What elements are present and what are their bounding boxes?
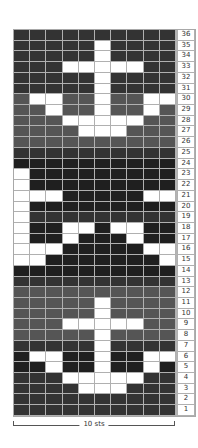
stitch-cell bbox=[14, 266, 30, 277]
row-number-label: 1 bbox=[177, 405, 195, 416]
stitch-cell bbox=[14, 126, 30, 137]
stitch-cell bbox=[95, 191, 111, 202]
row-number-label: 28 bbox=[177, 116, 195, 127]
row-number-label: 21 bbox=[177, 191, 195, 202]
stitch-cell bbox=[144, 94, 160, 105]
stitch-cell bbox=[127, 62, 143, 73]
stitch-cell bbox=[63, 223, 79, 234]
stitch-cell bbox=[111, 191, 127, 202]
stitch-cell bbox=[30, 330, 46, 341]
stitch-cell bbox=[160, 287, 176, 298]
stitch-cell bbox=[63, 169, 79, 180]
stitch-cell bbox=[30, 84, 46, 95]
stitch-cell bbox=[14, 73, 30, 84]
stitch-cell bbox=[144, 405, 160, 416]
chart-row: 27 bbox=[14, 126, 195, 137]
stitch-cell bbox=[127, 84, 143, 95]
chart-row: 12 bbox=[14, 287, 195, 298]
stitch-cell bbox=[14, 30, 30, 41]
stitch-cell bbox=[46, 405, 62, 416]
stitch-cell bbox=[46, 169, 62, 180]
stitch-cell bbox=[79, 309, 95, 320]
stitch-cell bbox=[14, 330, 30, 341]
stitch-cell bbox=[79, 62, 95, 73]
row-number-label: 10 bbox=[177, 309, 195, 320]
stitch-cell bbox=[14, 223, 30, 234]
chart-row: 2 bbox=[14, 394, 195, 405]
stitch-cell bbox=[46, 126, 62, 137]
knitting-chart-grid: 3635343332313029282726252423222120191817… bbox=[13, 29, 196, 417]
stitch-cell bbox=[30, 266, 46, 277]
stitch-cell bbox=[144, 30, 160, 41]
stitch-cell bbox=[127, 126, 143, 137]
stitch-cell bbox=[63, 341, 79, 352]
stitch-cell bbox=[46, 255, 62, 266]
stitch-cell bbox=[79, 234, 95, 245]
stitch-cell bbox=[79, 51, 95, 62]
stitch-cell bbox=[160, 266, 176, 277]
stitch-cell bbox=[95, 94, 111, 105]
stitch-cell bbox=[127, 137, 143, 148]
stitch-cell bbox=[79, 73, 95, 84]
stitch-cell bbox=[160, 126, 176, 137]
stitch-cell bbox=[127, 319, 143, 330]
row-number-label: 22 bbox=[177, 180, 195, 191]
stitch-cell bbox=[127, 94, 143, 105]
stitch-cell bbox=[63, 148, 79, 159]
stitch-cell bbox=[14, 352, 30, 363]
stitch-cell bbox=[63, 277, 79, 288]
stitch-cell bbox=[30, 94, 46, 105]
stitch-cell bbox=[46, 30, 62, 41]
stitch-cell bbox=[111, 202, 127, 213]
stitch-cell bbox=[144, 234, 160, 245]
stitch-cell bbox=[63, 352, 79, 363]
stitch-cell bbox=[14, 180, 30, 191]
stitch-cell bbox=[160, 51, 176, 62]
stitch-cell bbox=[14, 319, 30, 330]
stitch-cell bbox=[30, 352, 46, 363]
stitch-cell bbox=[160, 202, 176, 213]
stitch-cell bbox=[144, 148, 160, 159]
row-number-label: 8 bbox=[177, 330, 195, 341]
stitch-cell bbox=[144, 352, 160, 363]
stitch-cell bbox=[127, 362, 143, 373]
stitch-cell bbox=[111, 169, 127, 180]
stitch-cell bbox=[14, 244, 30, 255]
stitch-cell bbox=[160, 362, 176, 373]
stitch-cell bbox=[63, 287, 79, 298]
row-number-label: 18 bbox=[177, 223, 195, 234]
stitch-cell bbox=[46, 373, 62, 384]
stitch-cell bbox=[79, 287, 95, 298]
stitch-cell bbox=[46, 234, 62, 245]
stitch-cell bbox=[127, 223, 143, 234]
chart-row: 25 bbox=[14, 148, 195, 159]
stitch-cell bbox=[46, 244, 62, 255]
stitch-cell bbox=[30, 223, 46, 234]
stitch-cell bbox=[111, 266, 127, 277]
stitch-cell bbox=[95, 84, 111, 95]
stitch-cell bbox=[95, 169, 111, 180]
chart-row: 21 bbox=[14, 191, 195, 202]
stitch-cell bbox=[127, 191, 143, 202]
stitch-cell bbox=[46, 105, 62, 116]
stitch-cell bbox=[111, 180, 127, 191]
stitch-cell bbox=[144, 62, 160, 73]
stitch-cell bbox=[63, 137, 79, 148]
stitch-cell bbox=[46, 116, 62, 127]
stitch-cell bbox=[95, 362, 111, 373]
row-number-label: 14 bbox=[177, 266, 195, 277]
stitch-cell bbox=[79, 255, 95, 266]
stitch-cell bbox=[111, 384, 127, 395]
stitch-cell bbox=[63, 405, 79, 416]
stitch-cell bbox=[144, 373, 160, 384]
chart-row: 28 bbox=[14, 116, 195, 127]
stitch-cell bbox=[46, 148, 62, 159]
stitch-cell bbox=[30, 405, 46, 416]
stitch-cell bbox=[111, 41, 127, 52]
row-number-label: 24 bbox=[177, 159, 195, 170]
stitch-cell bbox=[14, 287, 30, 298]
stitch-cell bbox=[111, 62, 127, 73]
stitch-cell bbox=[30, 244, 46, 255]
stitch-cell bbox=[144, 51, 160, 62]
stitch-cell bbox=[63, 384, 79, 395]
